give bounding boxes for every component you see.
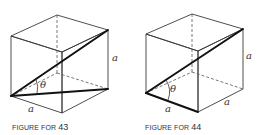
cube-44-top-face: [146, 14, 243, 51]
cube-43-side-right-label: a: [112, 52, 118, 63]
cube-44-hidden-right: [192, 72, 243, 89]
cube-44-angle-label: θ: [170, 83, 176, 94]
figures-canvas: θ a a θ a a a: [0, 0, 258, 135]
caption-43-number: 43: [58, 122, 68, 132]
cube-44-side-right-label: a: [246, 50, 252, 61]
caption-figure-44: FIGURE FOR 44: [145, 122, 201, 132]
cube-43-space-diagonal: [11, 30, 108, 96]
cube-43-right-face: [62, 30, 108, 113]
caption-44-prefix: FIGURE FOR: [145, 124, 189, 131]
cube-43-hidden-right: [57, 73, 108, 89]
cube-44-right-face: [198, 29, 243, 112]
cube-43-top-face: [11, 15, 108, 52]
cube-44-hidden-left: [146, 72, 192, 93]
cube-44-bottom-edge: [146, 93, 198, 112]
cube-figure-43: θ a a: [11, 15, 118, 114]
cube-44-front-face: [146, 34, 198, 112]
cube-44-side-bottom-left-label: a: [165, 103, 171, 114]
cube-figure-44: θ a a a: [146, 14, 252, 114]
caption-43-prefix: FIGURE FOR: [12, 124, 56, 131]
cube-43-side-bottom-label: a: [28, 103, 34, 114]
cube-44-side-bottom-right-label: a: [224, 96, 230, 107]
cube-43-front-face: [11, 36, 62, 113]
cube-44-angle-arc: [166, 80, 170, 100]
caption-figure-43: FIGURE FOR 43: [12, 122, 68, 132]
cube-43-angle-arc: [36, 79, 38, 94]
cube-43-angle-label: θ: [40, 79, 46, 90]
caption-44-number: 44: [191, 122, 201, 132]
cube-43-face-diagonal: [11, 89, 108, 96]
